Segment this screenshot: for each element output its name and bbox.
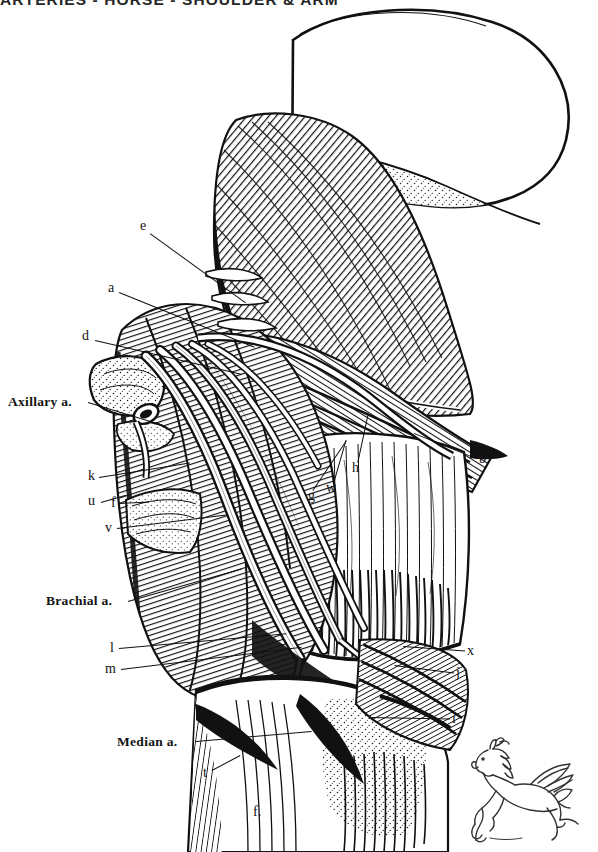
pegasus-logo-svg bbox=[452, 728, 582, 846]
label-d: d bbox=[82, 329, 89, 343]
label-h: h bbox=[352, 461, 359, 475]
label-axillary-a: Axillary a. bbox=[8, 395, 72, 409]
label-b: b bbox=[479, 452, 486, 466]
label-g: g bbox=[308, 489, 315, 503]
label-u: u bbox=[88, 494, 95, 508]
winged-horse-logo bbox=[452, 728, 582, 846]
label-j: j bbox=[456, 666, 460, 680]
label-v: v bbox=[105, 521, 112, 535]
label-brachial-a: Brachial a. bbox=[46, 594, 112, 608]
anatomy-illustration bbox=[0, 0, 598, 852]
label-f-lower: f. bbox=[253, 805, 261, 819]
label-e: e bbox=[140, 219, 146, 233]
label-t: t bbox=[203, 766, 207, 780]
label-a: a bbox=[108, 281, 114, 295]
label-m: m bbox=[105, 662, 116, 676]
anatomical-plate: ARTERIES - HORSE - SHOULDER & ARM bbox=[0, 0, 598, 852]
label-median-a: Median a. bbox=[117, 735, 177, 749]
label-f: f bbox=[111, 496, 116, 510]
label-l: l bbox=[110, 641, 114, 655]
label-x: x bbox=[467, 644, 474, 658]
label-k: k bbox=[88, 469, 95, 483]
label-i: i bbox=[452, 712, 456, 726]
